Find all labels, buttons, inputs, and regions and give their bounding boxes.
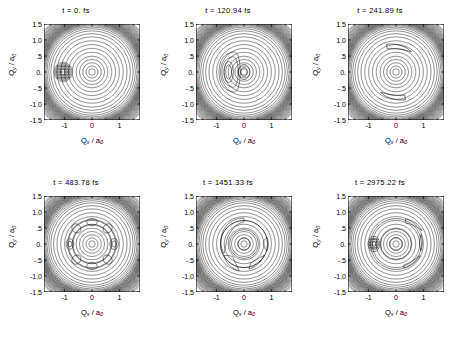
wavepacket-contours bbox=[66, 218, 118, 269]
x-tick: -1 bbox=[207, 122, 227, 129]
y-tick: -.5 bbox=[164, 257, 194, 264]
y-tick: .5 bbox=[316, 52, 346, 59]
x-tick: -1 bbox=[55, 122, 75, 129]
y-tick: -.5 bbox=[12, 85, 42, 92]
y-tick: 1.5 bbox=[12, 21, 42, 28]
panel-1-x-ticks: -1 0 1 bbox=[44, 122, 140, 134]
y-tick: 0. bbox=[164, 241, 194, 248]
y-tick: -1.0 bbox=[12, 272, 42, 279]
panel-3-plot-area bbox=[348, 24, 444, 120]
y-tick: 1.5 bbox=[164, 193, 194, 200]
y-tick: 1.5 bbox=[164, 21, 194, 28]
x-tick: -1 bbox=[207, 294, 227, 301]
panel-6-plot-area bbox=[348, 196, 444, 292]
y-tick: -.5 bbox=[164, 85, 194, 92]
panel-6-x-ticks: -1 0 1 bbox=[348, 294, 444, 306]
panel-6: t = 2975.22 fs Qy / a0 1.5 1.0 .5 0. -.5… bbox=[304, 172, 456, 344]
panel-1: t = 0. fs Qy / a0 1.5 1.0 .5 0. -.5 -1.0… bbox=[0, 0, 152, 172]
y-tick: 0. bbox=[164, 69, 194, 76]
y-tick: 1.5 bbox=[316, 21, 346, 28]
x-tick: 1 bbox=[261, 122, 281, 129]
y-tick: -.5 bbox=[316, 257, 346, 264]
wavepacket-contours bbox=[54, 62, 72, 81]
wavepacket-contours bbox=[220, 218, 268, 271]
x-tick: 0 bbox=[82, 122, 102, 129]
panel-2: t = 120.94 fs Qy / a0 1.5 1.0 .5 0. -.5 … bbox=[152, 0, 304, 172]
y-tick: 1.0 bbox=[12, 209, 42, 216]
x-tick: 1 bbox=[261, 294, 281, 301]
y-tick: .5 bbox=[164, 224, 194, 231]
panel-3-title: t = 241.89 fs bbox=[304, 6, 456, 15]
panel-1-plot-area bbox=[44, 24, 140, 120]
panel-3: t = 241.89 fs Qy / a0 1.5 1.0 .5 0. -.5 … bbox=[304, 0, 456, 172]
y-tick: 1.5 bbox=[316, 193, 346, 200]
y-tick: -.5 bbox=[316, 85, 346, 92]
panel-2-y-ticks: 1.5 1.0 .5 0. -.5 -1.0 -1.5 bbox=[162, 24, 194, 120]
contour-plot-figure: t = 0. fs Qy / a0 1.5 1.0 .5 0. -.5 -1.0… bbox=[0, 0, 456, 344]
x-tick: 1 bbox=[413, 294, 433, 301]
y-tick: .5 bbox=[164, 52, 194, 59]
x-tick: 1 bbox=[109, 294, 129, 301]
x-tick: -1 bbox=[359, 294, 379, 301]
panel-3-x-ticks: -1 0 1 bbox=[348, 122, 444, 134]
panel-3-x-axis-label: Qx / a0 bbox=[348, 136, 444, 145]
y-tick: 1.0 bbox=[316, 37, 346, 44]
y-tick: -1.0 bbox=[164, 100, 194, 107]
y-tick: -1.5 bbox=[316, 289, 346, 296]
panel-3-y-ticks: 1.5 1.0 .5 0. -.5 -1.0 -1.5 bbox=[314, 24, 346, 120]
y-tick: 1.5 bbox=[12, 193, 42, 200]
y-tick: -1.5 bbox=[12, 289, 42, 296]
y-tick: -.5 bbox=[12, 257, 42, 264]
x-tick: 0 bbox=[386, 122, 406, 129]
y-tick: 1.0 bbox=[164, 209, 194, 216]
x-tick: -1 bbox=[359, 122, 379, 129]
x-tick: 1 bbox=[109, 122, 129, 129]
y-tick: 0. bbox=[12, 241, 42, 248]
y-tick: .5 bbox=[316, 224, 346, 231]
y-tick: 1.0 bbox=[164, 37, 194, 44]
panel-4-title: t = 483.78 fs bbox=[0, 178, 152, 187]
panel-6-x-axis-label: Qx / a0 bbox=[348, 308, 444, 317]
x-tick: 1 bbox=[413, 122, 433, 129]
panel-5-y-ticks: 1.5 1.0 .5 0. -.5 -1.0 -1.5 bbox=[162, 196, 194, 292]
y-tick: 0. bbox=[316, 241, 346, 248]
y-tick: 0. bbox=[316, 69, 346, 76]
panel-2-x-ticks: -1 0 1 bbox=[196, 122, 292, 134]
y-tick: -1.5 bbox=[316, 117, 346, 124]
panel-4: t = 483.78 fs Qy / a0 1.5 1.0 .5 0. -.5 … bbox=[0, 172, 152, 344]
panel-4-x-ticks: -1 0 1 bbox=[44, 294, 140, 306]
y-tick: -1.0 bbox=[316, 100, 346, 107]
panel-5: t = 1451.33 fs Qy / a0 1.5 1.0 .5 0. -.5… bbox=[152, 172, 304, 344]
x-tick: 0 bbox=[82, 294, 102, 301]
x-tick: -1 bbox=[55, 294, 75, 301]
wavepacket-contours bbox=[219, 52, 250, 92]
y-tick: -1.0 bbox=[12, 100, 42, 107]
panel-4-y-ticks: 1.5 1.0 .5 0. -.5 -1.0 -1.5 bbox=[10, 196, 42, 292]
y-tick: -1.0 bbox=[316, 272, 346, 279]
panel-4-x-axis-label: Qx / a0 bbox=[44, 308, 140, 317]
panel-1-x-axis-label: Qx / a0 bbox=[44, 136, 140, 145]
panel-5-title: t = 1451.33 fs bbox=[152, 178, 304, 187]
y-tick: 1.0 bbox=[12, 37, 42, 44]
x-tick: 0 bbox=[234, 294, 254, 301]
y-tick: -1.5 bbox=[164, 289, 194, 296]
panel-5-x-axis-label: Qx / a0 bbox=[196, 308, 292, 317]
y-tick: -1.0 bbox=[164, 272, 194, 279]
y-tick: -1.5 bbox=[12, 117, 42, 124]
panel-6-title: t = 2975.22 fs bbox=[304, 178, 456, 187]
x-tick: 0 bbox=[386, 294, 406, 301]
y-tick: -1.5 bbox=[164, 117, 194, 124]
y-tick: .5 bbox=[12, 52, 42, 59]
panel-2-x-axis-label: Qx / a0 bbox=[196, 136, 292, 145]
panel-1-y-ticks: 1.5 1.0 .5 0. -.5 -1.0 -1.5 bbox=[10, 24, 42, 120]
panel-4-plot-area bbox=[44, 196, 140, 292]
panel-6-y-ticks: 1.5 1.0 .5 0. -.5 -1.0 -1.5 bbox=[314, 196, 346, 292]
panel-1-title: t = 0. fs bbox=[0, 6, 152, 15]
y-tick: 0. bbox=[12, 69, 42, 76]
x-tick: 0 bbox=[234, 122, 254, 129]
panel-5-x-ticks: -1 0 1 bbox=[196, 294, 292, 306]
panel-2-plot-area bbox=[196, 24, 292, 120]
panel-2-title: t = 120.94 fs bbox=[152, 6, 304, 15]
panel-5-plot-area bbox=[196, 196, 292, 292]
y-tick: .5 bbox=[12, 224, 42, 231]
